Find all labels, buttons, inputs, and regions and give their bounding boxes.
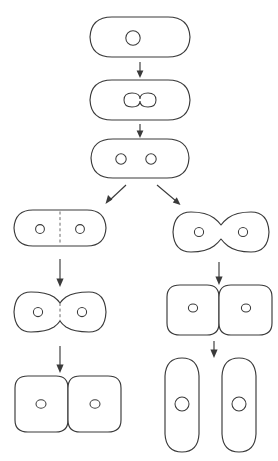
nucleoid (126, 31, 140, 45)
nucleoid-left (116, 154, 126, 164)
nucleoid-left (36, 225, 45, 234)
nucleoid-right (241, 304, 250, 312)
stage-constricting-cell (173, 212, 269, 252)
nucleoid-left (194, 227, 203, 236)
cell-membrane-outline (91, 139, 189, 178)
stage-separated-daughter-cells (165, 358, 256, 452)
nucleoid-right (90, 400, 100, 408)
arrow-down-right-branch-2 (210, 341, 217, 358)
arrow-diagonal-branch-left (106, 185, 127, 204)
cell-division-figure (0, 0, 278, 461)
nucleoid-left (33, 307, 42, 316)
stage-septum-formation-cell (14, 210, 106, 246)
arrow-down-stage2-to-stage3 (137, 124, 144, 138)
arrow-down-stage1-to-stage2 (137, 62, 144, 78)
cell-membrane-outline (173, 212, 269, 252)
nucleoid-right (76, 225, 85, 234)
arrow-diagonal-branch-right (157, 185, 181, 205)
arrow-down-right-branch-1 (215, 262, 222, 285)
nucleoid-left (188, 304, 197, 312)
stage-septum-constricting-cell (14, 292, 106, 332)
nucleoid-right (77, 307, 86, 316)
arrow-down-left-branch-1 (56, 259, 63, 287)
stage-cell-with-dividing-nucleoid (90, 80, 190, 120)
nucleoid-right (238, 227, 247, 236)
nucleoid-left (175, 397, 189, 411)
stage-parent-cell-single-nucleoid (90, 17, 190, 57)
diagram-canvas (0, 0, 278, 461)
nucleoid-left (36, 400, 46, 408)
stage-attached-daughter-cells-left (15, 376, 121, 432)
arrow-down-left-branch-2 (56, 346, 63, 373)
nucleoid-right (146, 154, 156, 164)
stage-cell-with-two-nucleoids (91, 139, 189, 178)
nucleoid-right (232, 397, 246, 411)
cell-membrane-outline (14, 292, 106, 332)
stage-attached-daughter-cells-right (167, 285, 272, 335)
